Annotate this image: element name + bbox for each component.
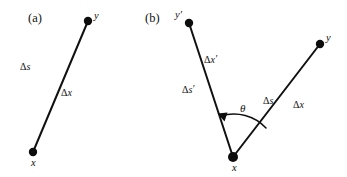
panel-b-delta-x-prime-mark: ′: [215, 53, 217, 64]
panel-a-delta-x-label: Δx: [61, 88, 72, 98]
panel-b-delta-x-label: Δx: [293, 100, 304, 110]
panel-a-label: (a): [28, 12, 42, 25]
panel-a-delta-s-label: Δs: [20, 62, 30, 72]
panel-b-geometry: [185, 19, 324, 162]
panel-a-point-x-label: x: [31, 158, 36, 169]
point-a-x: [29, 148, 37, 156]
point-b-y-prime: [185, 19, 193, 27]
segment-b-x-to-y: [233, 44, 320, 157]
panel-b-theta-label: θ: [240, 103, 245, 114]
panel-b-delta-s-var: s: [269, 95, 273, 106]
panel-b-delta-s-prime-mark: ′: [192, 83, 194, 94]
panel-a-point-y-label: y: [94, 11, 99, 22]
panel-b-point-y-prime-label: y′: [175, 10, 182, 21]
panel-b-point-y-label: y: [326, 33, 331, 44]
segment-b-x-to-y-prime: [189, 23, 233, 157]
point-b-y: [316, 40, 324, 48]
panel-b-delta-s-prime-label: Δs′: [182, 85, 195, 95]
point-b-x: [228, 152, 238, 162]
figure-canvas: [0, 0, 347, 177]
angle-arc-theta: [221, 114, 266, 128]
panel-b-delta-x-var: x: [299, 99, 303, 110]
panel-b-point-x-label: x: [232, 163, 237, 174]
point-a-y: [84, 17, 92, 25]
panel-a-delta-x-var: x: [67, 87, 71, 98]
panel-b-delta-x-prime-label: Δx′: [204, 55, 217, 65]
figure-container: (a) y x Δs Δx (b) y′ y x Δx′ Δs′ Δs Δx θ: [0, 0, 347, 177]
panel-b-delta-s-label: Δs: [263, 96, 273, 106]
panel-a-delta-s-var: s: [26, 61, 30, 72]
panel-b-label: (b): [145, 12, 160, 25]
